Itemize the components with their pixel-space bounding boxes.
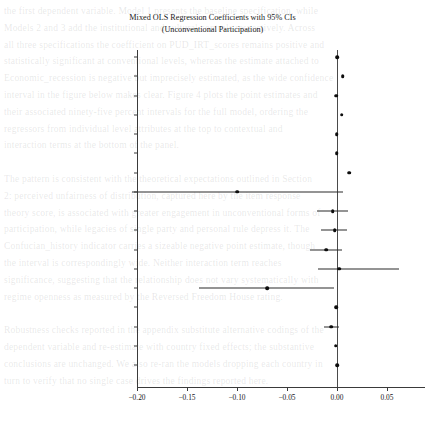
y-axis-tick — [134, 172, 138, 173]
y-axis-tick — [134, 191, 138, 192]
y-axis-tick — [134, 230, 138, 231]
x-axis-tick — [387, 387, 388, 391]
y-axis-tick — [134, 326, 138, 327]
coefficient-point — [334, 94, 338, 98]
coefficient-point — [324, 248, 328, 252]
coefficient-plot-figure: Mixed OLS Regression Coefficients with 9… — [0, 0, 425, 426]
y-axis-tick — [134, 307, 138, 308]
y-axis-tick — [134, 57, 138, 58]
x-axis-tick — [137, 387, 138, 391]
x-axis-tick — [337, 387, 338, 391]
coefficient-point — [334, 305, 338, 309]
y-axis-tick — [134, 268, 138, 269]
chart-title: Mixed OLS Regression Coefficients with 9… — [0, 12, 425, 35]
x-axis-tick — [287, 387, 288, 391]
y-axis-tick — [134, 345, 138, 346]
x-axis-tick — [237, 387, 238, 391]
coefficient-point — [340, 113, 344, 117]
coefficient-point — [347, 171, 351, 175]
x-axis-tick-label: −0.05 — [278, 393, 295, 402]
coefficient-point — [333, 228, 337, 232]
y-axis-tick — [134, 288, 138, 289]
plot-area: Age_groupMaleEducationPolitical_interest… — [137, 50, 387, 388]
coefficient-point — [337, 267, 341, 271]
x-axis-tick-label: 0.00 — [331, 393, 344, 402]
chart-title-line1: Mixed OLS Regression Coefficients with 9… — [0, 12, 425, 24]
x-axis-tick-label: −0.15 — [178, 393, 195, 402]
x-axis-tick-label: 0.05 — [381, 393, 394, 402]
y-axis-tick — [134, 76, 138, 77]
coefficient-point — [331, 209, 335, 213]
coefficient-point — [265, 286, 269, 290]
y-axis-tick — [134, 249, 138, 250]
coefficient-point — [334, 344, 338, 348]
coefficient-point — [329, 325, 333, 329]
coefficient-point — [335, 151, 339, 155]
y-axis-tick — [134, 365, 138, 366]
coefficient-point — [335, 55, 339, 59]
y-axis-line — [137, 50, 138, 388]
confidence-interval-bar — [318, 268, 399, 269]
zero-reference-line — [337, 50, 338, 387]
x-axis-tick-label: −0.20 — [128, 393, 145, 402]
x-axis-line — [137, 387, 425, 388]
y-axis-tick — [134, 134, 138, 135]
x-axis-tick-label: −0.10 — [228, 393, 245, 402]
coefficient-point — [235, 190, 239, 194]
coefficient-point — [335, 363, 339, 367]
y-axis-tick — [134, 153, 138, 154]
coefficient-point — [341, 74, 345, 78]
chart-title-line2: (Unconventional Participation) — [0, 24, 425, 36]
y-axis-tick — [134, 211, 138, 212]
y-axis-tick — [134, 114, 138, 115]
coefficient-point — [335, 132, 339, 136]
x-axis-tick — [187, 387, 188, 391]
y-axis-tick — [134, 95, 138, 96]
